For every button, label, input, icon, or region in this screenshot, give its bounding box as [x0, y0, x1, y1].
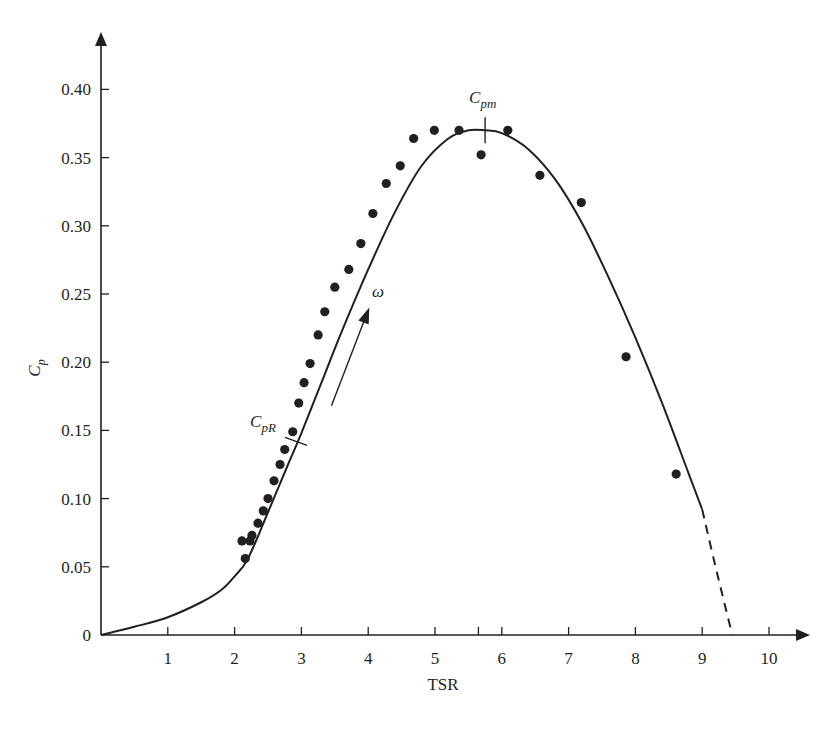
cpr-label: CpR: [250, 412, 276, 435]
data-point: [409, 134, 418, 143]
data-point: [454, 126, 463, 135]
y-axis-title-sub: p: [34, 359, 48, 366]
y-tick-label: 0.35: [61, 149, 91, 168]
cp-fit-curve: [101, 130, 702, 635]
cp-vs-tsr-chart: 12345678910 00.050.100.150.200.250.300.3…: [0, 0, 836, 734]
y-tick-label: 0.15: [61, 421, 91, 440]
data-point: [314, 330, 323, 339]
data-point: [299, 378, 308, 387]
axes: [95, 32, 810, 641]
y-tick-label: 0.05: [61, 558, 91, 577]
svg-text:Cp: Cp: [25, 359, 48, 376]
data-point: [382, 179, 391, 188]
x-tick-label: 5: [431, 649, 440, 668]
omega-arrow-head-icon: [358, 308, 369, 325]
x-tick-label: 1: [164, 649, 173, 668]
annotations: CpmCpRω: [250, 88, 496, 445]
data-point: [237, 536, 246, 545]
y-tick-label: 0.10: [61, 490, 91, 509]
x-tick-label: 10: [761, 649, 778, 668]
y-tick-label: 0.25: [61, 285, 91, 304]
data-points: [237, 126, 680, 563]
data-point: [259, 506, 268, 515]
x-tick-label: 3: [297, 649, 306, 668]
y-tick-label: 0.20: [61, 353, 91, 372]
data-point: [577, 198, 586, 207]
data-point: [247, 531, 256, 540]
data-point: [535, 171, 544, 180]
data-point: [356, 239, 365, 248]
y-tick-label: 0.40: [61, 80, 91, 99]
x-axis-arrow-icon: [796, 629, 810, 641]
y-axis-arrow-icon: [95, 32, 107, 46]
data-point: [280, 445, 289, 454]
data-point: [330, 283, 339, 292]
data-point: [396, 161, 405, 170]
data-point: [241, 554, 250, 563]
x-tick-label: 2: [230, 649, 239, 668]
y-axis-title-main: C: [25, 365, 44, 377]
data-point: [503, 126, 512, 135]
data-point: [476, 150, 485, 159]
y-axis-title: Cp: [25, 359, 48, 376]
data-point: [288, 427, 297, 436]
data-point: [305, 359, 314, 368]
x-tick-label: 4: [364, 649, 373, 668]
cpm-label: Cpm: [469, 88, 496, 111]
data-point: [275, 460, 284, 469]
data-point: [621, 352, 630, 361]
x-axis-ticks: 12345678910: [164, 627, 778, 668]
data-point: [672, 469, 681, 478]
data-point: [253, 519, 262, 528]
data-point: [320, 307, 329, 316]
omega-arrow-shaft: [331, 310, 368, 405]
data-point: [344, 265, 353, 274]
x-tick-label: 6: [498, 649, 507, 668]
y-tick-label: 0: [83, 626, 92, 645]
data-point: [263, 494, 272, 503]
data-point: [430, 126, 439, 135]
data-point: [294, 399, 303, 408]
data-point: [368, 209, 377, 218]
y-axis-ticks: 00.050.100.150.200.250.300.350.40: [61, 80, 109, 645]
cp-extrapolation-dashed: [702, 510, 732, 635]
omega-label: ω: [372, 282, 384, 301]
data-point: [269, 476, 278, 485]
cp-curve: [101, 130, 732, 635]
x-tick-label: 7: [564, 649, 573, 668]
x-tick-label: 8: [631, 649, 640, 668]
y-tick-label: 0.30: [61, 217, 91, 236]
x-tick-label: 9: [698, 649, 707, 668]
x-axis-title: TSR: [427, 675, 459, 694]
